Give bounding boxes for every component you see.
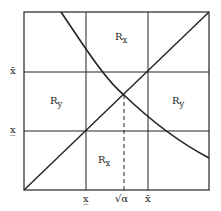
region-label-rx-bottom: Rx [98,155,110,167]
region-label-ry-left: Ry [50,96,62,108]
y-label-lower-x: x̲ [10,125,16,135]
x-label-lower-x: x̲ [83,194,89,204]
y-label-upper-x: x̄ [10,66,16,76]
diagram-canvas [0,0,221,211]
x-label-sqrt-alpha: √α [115,194,128,204]
x-label-upper-x: x̄ [145,194,151,204]
region-label-rx-top: Rx [115,32,127,44]
region-label-ry-right: Ry [172,96,184,108]
